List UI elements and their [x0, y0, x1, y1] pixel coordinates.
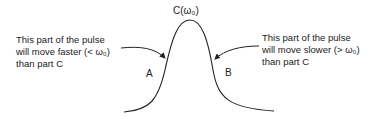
- point-b-label: B: [225, 67, 232, 78]
- left-annotation-line3: than part C: [16, 58, 110, 70]
- right-annotation-line1: This part of the pulse: [262, 32, 360, 44]
- right-annotation-line2: will move slower (> ω₀): [262, 44, 360, 56]
- left-arrow: [121, 47, 165, 58]
- pulse-curve: [124, 20, 274, 112]
- right-arrow: [215, 46, 259, 59]
- right-annotation-line3: than part C: [262, 56, 360, 68]
- right-annotation: This part of the pulse will move slower …: [262, 32, 360, 68]
- left-annotation-line1: This part of the pulse: [16, 34, 110, 46]
- peak-label: C(ω₀): [173, 5, 199, 17]
- point-a-label: A: [146, 68, 153, 79]
- left-annotation: This part of the pulse will move faster …: [16, 34, 110, 70]
- left-annotation-line2: will move faster (< ω₀): [16, 46, 110, 58]
